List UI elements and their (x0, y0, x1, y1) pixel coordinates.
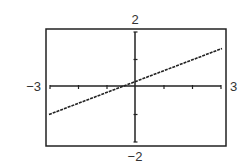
ymin-label: −2 (128, 149, 143, 164)
xmax-label: 3 (230, 79, 237, 94)
viewing-window-frame (46, 29, 226, 146)
xmin-label: −3 (26, 79, 41, 94)
graph-window: 2 −2 −3 3 (0, 0, 239, 167)
ymax-label: 2 (131, 12, 138, 27)
